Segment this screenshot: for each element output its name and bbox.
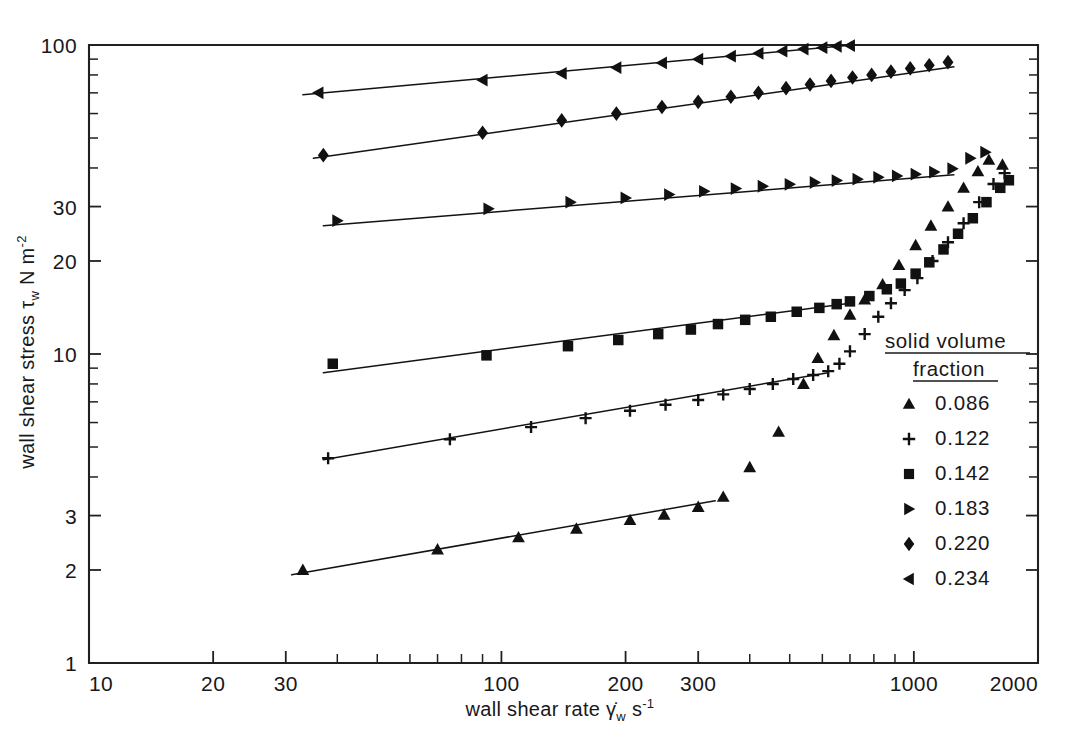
data-point [328, 358, 338, 368]
data-point [852, 173, 863, 186]
data-point [717, 490, 730, 501]
data-point [882, 284, 892, 294]
data-point [725, 89, 736, 104]
data-point [477, 125, 488, 140]
y-tick-label: 10 [53, 343, 77, 366]
y-tick-label: 20 [53, 250, 77, 273]
data-point [864, 291, 874, 301]
x-axis-ticks [89, 651, 1038, 663]
data-point [866, 68, 877, 83]
y-tick-label: 1 [65, 652, 77, 675]
data-point [785, 178, 796, 191]
data-point [942, 200, 955, 211]
legend-marker-0.220 [904, 537, 915, 551]
data-point [611, 106, 622, 121]
data-point [752, 47, 763, 60]
data-point [859, 328, 871, 340]
data-point [893, 259, 906, 270]
legend-title-line2: fraction [913, 357, 985, 380]
data-point [772, 425, 785, 436]
x-axis-tick-labels: 10203010020030010002000 [89, 672, 1038, 695]
legend-label-0.122: 0.122 [935, 426, 990, 449]
data-point [621, 192, 632, 205]
data-point [844, 345, 856, 357]
data-point [781, 81, 792, 96]
data-point [957, 181, 970, 192]
legend-marker-0.086 [903, 398, 915, 409]
data-point [816, 41, 827, 54]
svg-text:wall shear rate γ̇w s-1: wall shear rate γ̇w s-1 [465, 696, 655, 724]
legend-label-0.220: 0.220 [935, 531, 990, 554]
data-point [312, 86, 323, 99]
data-point [968, 213, 978, 223]
legend-label-0.234: 0.234 [935, 566, 990, 589]
series-0.122 [322, 167, 1011, 464]
data-point [873, 171, 884, 184]
data-point [555, 67, 566, 80]
y-tick-label: 3 [65, 505, 77, 528]
x-axis-title: wall shear rate γ̇w s-1 [465, 696, 655, 724]
data-point [807, 369, 819, 381]
data-point [872, 311, 884, 323]
scatter-plot: 10203010020030010002000 100302010321 sol… [0, 0, 1092, 745]
x-tick-label: 300 [680, 672, 716, 695]
x-tick-label: 10 [89, 672, 113, 695]
axis-frame [89, 45, 1038, 663]
data-point [565, 196, 576, 209]
legend-marker-0.183 [904, 503, 915, 515]
data-point [924, 257, 934, 267]
fit-line-0.122 [323, 373, 828, 460]
series-0.220 [318, 55, 954, 163]
x-tick-label: 30 [274, 672, 298, 695]
data-point [885, 297, 897, 309]
data-point [656, 57, 667, 70]
fit-line-0.086 [292, 501, 716, 575]
data-point [981, 197, 991, 207]
data-point [822, 365, 834, 377]
fit-lines-group [292, 45, 954, 575]
data-point [692, 53, 703, 66]
data-point [965, 152, 976, 165]
data-point [686, 324, 696, 334]
data-point [481, 350, 491, 360]
x-tick-label: 100 [483, 672, 519, 695]
data-point [743, 461, 756, 472]
data-point [847, 70, 858, 85]
svg-text:wall shear stress τw N m-2: wall shear stress τw N m-2 [14, 235, 42, 469]
legend-marker-0.122 [903, 433, 915, 445]
data-point [810, 176, 821, 189]
x-tick-label: 20 [201, 672, 225, 695]
data-point [805, 77, 816, 92]
data-point [296, 564, 309, 575]
data-point [830, 40, 841, 53]
legend-marker-0.234 [903, 573, 914, 585]
data-point [656, 100, 667, 115]
data-point [766, 311, 776, 321]
data-point [972, 165, 985, 176]
y-axis-tick-labels: 100302010321 [41, 34, 77, 675]
legend-title-line1: solid volume [885, 329, 1006, 352]
data-point [444, 433, 456, 445]
data-point [1004, 175, 1014, 185]
data-point [832, 174, 843, 187]
data-point [664, 188, 675, 201]
legend: solid volumefraction0.0860.1220.1420.183… [885, 329, 1030, 589]
data-point [844, 308, 857, 319]
y-axis-title: wall shear stress τw N m-2 [14, 235, 42, 469]
data-point [833, 358, 845, 370]
data-point [925, 219, 938, 230]
legend-marker-0.142 [904, 469, 914, 479]
data-point [610, 61, 621, 74]
data-point [814, 303, 824, 313]
data-point [947, 162, 958, 175]
legend-label-0.142: 0.142 [935, 461, 990, 484]
data-point [776, 45, 787, 58]
data-point [909, 239, 922, 250]
fit-line-0.220 [313, 67, 953, 158]
legend-label-0.183: 0.183 [935, 496, 990, 519]
data-point [740, 315, 750, 325]
y-tick-label: 100 [41, 34, 77, 57]
x-tick-label: 2000 [990, 672, 1038, 695]
x-tick-label: 1000 [890, 672, 938, 695]
data-point [892, 170, 903, 183]
